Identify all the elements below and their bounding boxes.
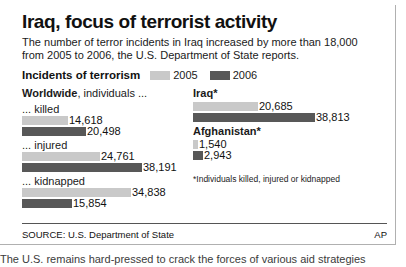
bar-kidnapped-2006 bbox=[22, 199, 72, 208]
legend-swatch-2006 bbox=[210, 71, 230, 80]
source-divider bbox=[22, 223, 387, 224]
source-text: SOURCE: U.S. Department of State bbox=[22, 229, 174, 240]
legend-label-2005: 2005 bbox=[173, 69, 197, 81]
page-body-text: The U.S. remains hard-pressed to crack t… bbox=[0, 252, 406, 267]
page-title: Iraq, focus of terrorist activity bbox=[22, 11, 387, 33]
bar-kidnapped-2005 bbox=[22, 188, 131, 197]
country-column: Iraq* 20,685 38,813 Afghanistan* 1,540 bbox=[193, 87, 393, 185]
bar-injured-2005 bbox=[22, 152, 100, 161]
bar-killed-2006 bbox=[22, 127, 86, 136]
bar-afghanistan-2005 bbox=[193, 140, 198, 149]
bar-value-killed-2006: 20,498 bbox=[87, 127, 121, 136]
bar-value-iraq-2005: 20,685 bbox=[259, 102, 293, 111]
legend-title: Incidents of terrorism bbox=[22, 69, 140, 81]
bar-value-afghanistan-2006: 2,943 bbox=[204, 151, 232, 160]
worldwide-column: Worldwide, individuals ... ... killed 14… bbox=[22, 87, 190, 210]
bar-value-killed-2005: 14,618 bbox=[69, 116, 103, 125]
bar-killed-2005 bbox=[22, 116, 68, 125]
bar-afghanistan-2006 bbox=[193, 151, 203, 160]
subhead-text: The number of terror incidents in Iraq i… bbox=[22, 36, 370, 62]
bar-row-injured-2006: 38,191 bbox=[22, 163, 190, 172]
bar-row-kidnapped-2005: 34,838 bbox=[22, 188, 190, 197]
afghanistan-heading-label: Afghanistan* bbox=[193, 125, 261, 137]
bar-value-kidnapped-2005: 34,838 bbox=[132, 188, 166, 197]
bar-value-injured-2006: 38,191 bbox=[143, 163, 177, 172]
bar-row-iraq-2006: 38,813 bbox=[193, 113, 393, 122]
ap-credit: AP bbox=[374, 229, 387, 240]
bar-row-injured-2005: 24,761 bbox=[22, 152, 190, 161]
bar-injured-2006 bbox=[22, 163, 142, 172]
bar-value-injured-2005: 24,761 bbox=[101, 152, 135, 161]
afghanistan-heading: Afghanistan* bbox=[193, 125, 393, 138]
bar-iraq-2006 bbox=[193, 113, 315, 122]
iraq-heading-label: Iraq* bbox=[193, 87, 217, 99]
bar-row-killed-2005: 14,618 bbox=[22, 116, 190, 125]
iraq-heading: Iraq* bbox=[193, 87, 393, 100]
worldwide-heading-rest: , individuals ... bbox=[77, 87, 147, 99]
legend-swatch-2005 bbox=[150, 71, 170, 80]
bar-row-kidnapped-2006: 15,854 bbox=[22, 199, 190, 208]
bar-iraq-2005 bbox=[193, 102, 258, 111]
source-row: SOURCE: U.S. Department of State AP bbox=[22, 229, 387, 240]
legend: Incidents of terrorism 2005 2006 bbox=[22, 69, 387, 81]
infographic-panel: Iraq, focus of terrorist activity The nu… bbox=[0, 5, 396, 245]
bar-row-killed-2006: 20,498 bbox=[22, 127, 190, 136]
bar-row-iraq-2005: 20,685 bbox=[193, 102, 393, 111]
bar-value-afghanistan-2005: 1,540 bbox=[199, 140, 227, 149]
worldwide-heading-bold: Worldwide bbox=[22, 87, 77, 99]
bar-value-iraq-2006: 38,813 bbox=[316, 113, 350, 122]
bar-row-afghanistan-2005: 1,540 bbox=[193, 140, 393, 149]
panel-content: Iraq, focus of terrorist activity The nu… bbox=[22, 11, 387, 87]
footnote: *Individuals killed, injured or kidnappe… bbox=[193, 174, 393, 185]
legend-label-2006: 2006 bbox=[233, 69, 257, 81]
bar-row-afghanistan-2006: 2,943 bbox=[193, 151, 393, 160]
group-label-killed: ... killed bbox=[22, 103, 190, 115]
worldwide-heading: Worldwide, individuals ... bbox=[22, 87, 190, 100]
bar-value-kidnapped-2006: 15,854 bbox=[73, 199, 107, 208]
